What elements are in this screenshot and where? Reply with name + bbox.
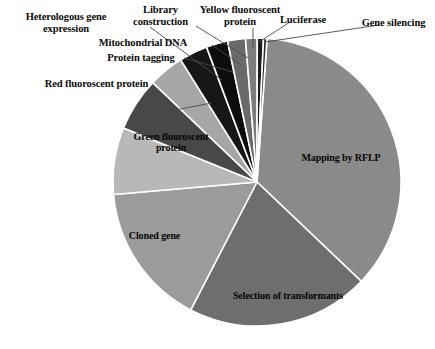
pie-chart-figure: Heterologous gene expression Library con…: [0, 0, 435, 349]
pie-label-protein-tagging: Protein tagging: [97, 52, 185, 64]
pie-label-library-construction: Library construction: [118, 4, 203, 27]
pie-label-mapping-by-rflp: Mapping by RFLP: [287, 152, 395, 163]
pie-label-green-fluoroscent-protein: Green fluoroscent protein: [122, 131, 220, 153]
pie-label-selection-of-transformants: Selection of transformants: [208, 290, 368, 301]
pie-label-heterologous-gene-expression: Heterologous gene expression: [6, 11, 126, 34]
pie-label-luciferase: Luciferase: [273, 14, 333, 26]
pie-label-red-fluoroscent-protein: Red fluoroscent protein: [24, 78, 169, 90]
pie-label-cloned-gene: Cloned gene: [107, 230, 202, 241]
pie-label-gene-silencing: Gene silencing: [354, 17, 433, 29]
pie-label-mitochondrial-dna: Mitochondrial DNA: [88, 37, 198, 49]
